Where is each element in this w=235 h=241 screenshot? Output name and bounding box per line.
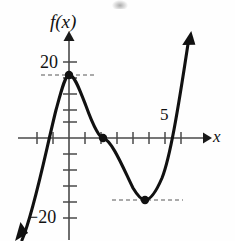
point-local-maximum <box>65 71 73 79</box>
y-axis-ticks <box>63 62 77 218</box>
curve-arrow-top-right <box>182 30 197 47</box>
x-tick-label-5: 5 <box>160 106 169 123</box>
y-tick-label-20: 20 <box>40 53 58 71</box>
y-axis <box>63 31 77 240</box>
x-axis-label: x <box>213 128 221 145</box>
graph-figure: f(x) 20 −20 5 x <box>0 0 235 241</box>
point-x-intercept <box>99 134 107 142</box>
point-local-minimum <box>141 196 149 204</box>
cubic-function-plot <box>0 0 235 241</box>
y-axis-label: f(x) <box>50 12 76 31</box>
y-tick-label-neg-20: −20 <box>28 208 56 226</box>
